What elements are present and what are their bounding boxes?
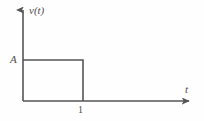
amplitude-tick-label: A	[10, 54, 17, 65]
x-tick-label-one: 1	[78, 105, 83, 115]
y-axis-label: v(t)	[29, 5, 44, 16]
pulse-waveform	[23, 60, 83, 101]
plot-canvas	[0, 0, 204, 121]
pulse-figure: v(t) t A 1	[0, 0, 204, 121]
x-axis-label: t	[185, 84, 188, 95]
